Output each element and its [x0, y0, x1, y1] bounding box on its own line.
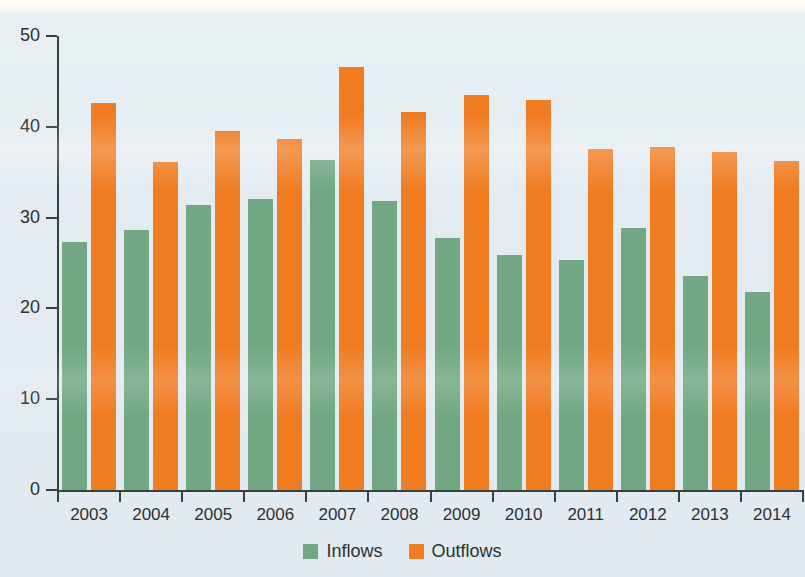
- bar-inflows-2003: [62, 242, 87, 490]
- x-tick-label-2006: 2006: [244, 505, 306, 525]
- x-tick-label-2008: 2008: [368, 505, 430, 525]
- x-tick-5: [367, 490, 369, 502]
- x-tick-label-2012: 2012: [617, 505, 679, 525]
- bar-outflows-2012: [650, 147, 675, 490]
- x-tick-9: [616, 490, 618, 502]
- bar-outflows-2005: [215, 131, 240, 490]
- bar-inflows-2007: [310, 160, 335, 491]
- y-tick-label-40: 40: [6, 116, 40, 137]
- y-tick-label-30: 30: [6, 207, 40, 228]
- bar-inflows-2010: [497, 255, 522, 490]
- y-tick-40: [46, 126, 57, 128]
- bar-outflows-2010: [526, 100, 551, 490]
- outflows-swatch-icon: [409, 544, 424, 559]
- bar-inflows-2012: [621, 228, 646, 490]
- bar-inflows-2011: [559, 260, 584, 490]
- x-tick-label-2007: 2007: [306, 505, 368, 525]
- x-tick-label-2014: 2014: [741, 505, 803, 525]
- x-tick-label-2005: 2005: [182, 505, 244, 525]
- bar-outflows-2013: [712, 152, 737, 490]
- x-tick-label-2003: 2003: [58, 505, 120, 525]
- y-tick-30: [46, 217, 57, 219]
- y-tick-label-20: 20: [6, 297, 40, 318]
- x-tick-label-2009: 2009: [431, 505, 493, 525]
- y-tick-20: [46, 307, 57, 309]
- bar-inflows-2013: [683, 276, 708, 490]
- bar-outflows-2008: [401, 112, 426, 490]
- y-tick-label-10: 10: [6, 388, 40, 409]
- bar-outflows-2014: [774, 161, 799, 490]
- y-tick-label-50: 50: [6, 25, 40, 46]
- bar-inflows-2008: [372, 201, 397, 490]
- legend-item-inflows: Inflows: [303, 541, 382, 562]
- y-tick-label-0: 0: [6, 479, 40, 500]
- inflows-swatch-icon: [303, 544, 318, 559]
- x-tick-label-2010: 2010: [493, 505, 555, 525]
- x-tick-3: [243, 490, 245, 502]
- bar-inflows-2014: [745, 292, 770, 490]
- y-tick-50: [46, 35, 57, 37]
- bar-inflows-2009: [435, 238, 460, 490]
- x-tick-4: [305, 490, 307, 502]
- bar-outflows-2007: [339, 67, 364, 490]
- bar-outflows-2006: [277, 139, 302, 490]
- chart-legend: Inflows Outflows: [0, 541, 805, 562]
- bar-inflows-2005: [186, 205, 211, 490]
- bar-outflows-2011: [588, 149, 613, 490]
- y-tick-10: [46, 398, 57, 400]
- x-tick-12: [802, 490, 804, 502]
- bar-inflows-2004: [124, 230, 149, 490]
- bar-chart-figure: 01020304050 2003200420052006200720082009…: [0, 0, 805, 577]
- x-tick-7: [492, 490, 494, 502]
- legend-label-inflows: Inflows: [326, 541, 382, 562]
- x-tick-6: [430, 490, 432, 502]
- x-tick-8: [554, 490, 556, 502]
- x-tick-11: [740, 490, 742, 502]
- x-tick-10: [678, 490, 680, 502]
- x-tick-1: [119, 490, 121, 502]
- y-tick-0: [46, 489, 57, 491]
- bar-outflows-2003: [91, 103, 116, 490]
- bar-inflows-2006: [248, 199, 273, 490]
- plot-area: [58, 36, 803, 490]
- legend-item-outflows: Outflows: [409, 541, 502, 562]
- legend-label-outflows: Outflows: [432, 541, 502, 562]
- x-tick-label-2011: 2011: [555, 505, 617, 525]
- bar-outflows-2004: [153, 162, 178, 490]
- x-tick-0: [57, 490, 59, 502]
- bar-outflows-2009: [464, 95, 489, 490]
- y-axis-line: [57, 36, 59, 492]
- x-tick-label-2004: 2004: [120, 505, 182, 525]
- x-tick-label-2013: 2013: [679, 505, 741, 525]
- x-tick-2: [181, 490, 183, 502]
